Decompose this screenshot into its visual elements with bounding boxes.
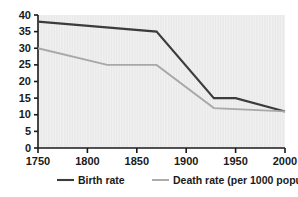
y-tick-label: 10 — [19, 108, 31, 120]
legend-label-1: Death rate (per 1000 population) — [173, 174, 298, 186]
x-axis-ticks: 175018001850190019502000 — [26, 148, 297, 167]
y-tick-label: 0 — [25, 142, 31, 154]
legend-label-0: Birth rate — [78, 174, 125, 186]
x-tick-label: 1900 — [174, 155, 198, 167]
plot-texture — [40, 15, 284, 148]
y-tick-label: 35 — [19, 25, 31, 37]
chart-canvas: 0510152025303540 17501800185019001950200… — [0, 0, 298, 197]
x-tick-label: 1950 — [223, 155, 247, 167]
y-tick-label: 30 — [19, 42, 31, 54]
y-tick-label: 15 — [19, 92, 31, 104]
y-tick-label: 40 — [19, 9, 31, 21]
chart-container: 0510152025303540 17501800185019001950200… — [0, 0, 298, 197]
x-tick-label: 1800 — [75, 155, 99, 167]
x-tick-label: 2000 — [273, 155, 297, 167]
y-tick-label: 5 — [25, 125, 31, 137]
x-tick-label: 1850 — [125, 155, 149, 167]
chart-legend: Birth rateDeath rate (per 1000 populatio… — [57, 174, 298, 186]
y-tick-label: 20 — [19, 75, 31, 87]
x-tick-label: 1750 — [26, 155, 50, 167]
y-axis-ticks: 0510152025303540 — [19, 9, 38, 154]
line-chart-svg: 0510152025303540 17501800185019001950200… — [0, 0, 298, 197]
y-tick-label: 25 — [19, 58, 31, 70]
